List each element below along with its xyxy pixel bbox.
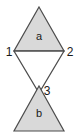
face-label-a: a [36, 30, 43, 42]
bowtie-triangle-diagram: a b 1 2 3 [0, 0, 78, 138]
triangle-a-shape [14, 7, 64, 51]
vertex-label-1: 1 [6, 45, 13, 59]
vertex-label-2: 2 [67, 45, 74, 59]
face-label-b: b [36, 107, 42, 119]
vertex-label-3: 3 [44, 84, 51, 98]
diagram-canvas: a b 1 2 3 [0, 0, 78, 138]
